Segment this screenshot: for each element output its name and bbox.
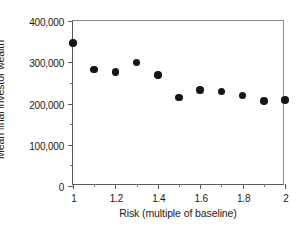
y-tick-minor: [70, 165, 73, 166]
x-tick-major: 2: [285, 184, 286, 189]
x-tick-major: 1: [73, 184, 74, 189]
plot-area: 0100,000200,000300,000400,000 11.21.41.6…: [72, 20, 284, 185]
x-tick-major: 1.2: [115, 184, 116, 189]
x-tick-minor: [137, 184, 138, 187]
y-tick-label: 400,000: [29, 17, 64, 28]
y-tick-label: 200,000: [29, 99, 64, 110]
data-point: [112, 68, 120, 76]
data-point: [154, 71, 162, 79]
y-tick-label: 0: [59, 182, 64, 193]
y-axis-title: Mean final investor wealth: [0, 17, 11, 182]
data-point: [218, 88, 226, 96]
y-tick-major: 300,000: [68, 62, 73, 63]
data-point: [239, 92, 247, 100]
data-point: [196, 86, 204, 94]
data-point: [175, 94, 183, 102]
y-tick-major: 100,000: [68, 145, 73, 146]
x-axis-title: Risk (multiple of baseline): [72, 207, 284, 219]
x-tick-label: 1.4: [152, 193, 165, 204]
x-tick-major: 1.6: [200, 184, 201, 189]
x-tick-label: 2: [283, 193, 288, 204]
y-tick-major: 200,000: [68, 104, 73, 105]
x-tick-minor: [94, 184, 95, 187]
x-tick-minor: [179, 184, 180, 187]
data-point: [69, 39, 77, 47]
y-tick-label: 300,000: [29, 58, 64, 69]
x-tick-major: 1.4: [158, 184, 159, 189]
x-tick-minor: [264, 184, 265, 187]
x-tick-label: 1: [71, 193, 76, 204]
data-point: [260, 97, 268, 105]
x-tick-label: 1.6: [195, 193, 208, 204]
y-tick-minor: [70, 124, 73, 125]
data-point: [281, 96, 289, 104]
x-tick-minor: [221, 184, 222, 187]
x-tick-label: 1.8: [237, 193, 250, 204]
data-point: [133, 59, 141, 67]
y-tick-minor: [70, 83, 73, 84]
y-tick-label: 100,000: [29, 140, 64, 151]
x-tick-label: 1.2: [110, 193, 123, 204]
y-tick-major: 400,000: [68, 21, 73, 22]
scatter-chart-figure: Mean final investor wealth 0100,000200,0…: [0, 0, 305, 233]
data-point: [90, 66, 98, 74]
x-tick-major: 1.8: [243, 184, 244, 189]
